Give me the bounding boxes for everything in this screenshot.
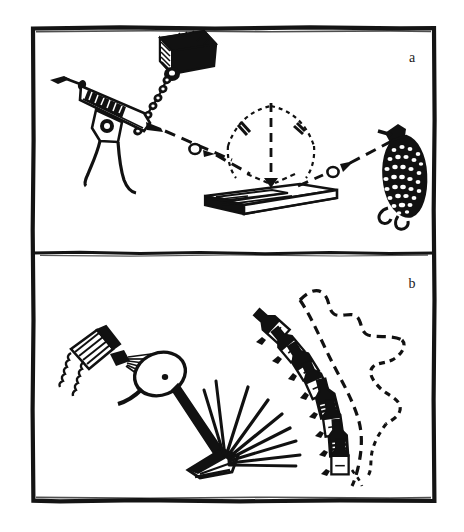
figure-root: a bbox=[0, 0, 464, 532]
grip-bolt-hole bbox=[104, 123, 110, 129]
projectile-marker-outbound bbox=[327, 167, 338, 177]
frame-bottom-inner-stroke bbox=[36, 497, 431, 498]
disc-center-dot bbox=[162, 374, 168, 380]
figure-canvas: a bbox=[0, 0, 464, 532]
frame-top-inner-stroke bbox=[36, 31, 431, 32]
panel-a-label: a bbox=[409, 50, 416, 65]
clamp-pivot-highlight bbox=[169, 70, 175, 75]
panel-b-label: b bbox=[409, 276, 416, 291]
ray-9 bbox=[229, 465, 296, 466]
divider-line bbox=[33, 252, 434, 254]
projectile-marker-inbound bbox=[189, 144, 200, 154]
